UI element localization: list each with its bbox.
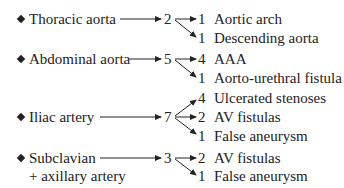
group-label-subclavian: Subclavian — [29, 150, 96, 166]
group-label-subclavian-line2: + axillary artery — [29, 168, 126, 184]
outcome-label: AV fistulas — [214, 109, 281, 125]
outcome-n: 1 — [198, 30, 206, 46]
outcome-label: False aneurysm — [214, 128, 308, 144]
group-label-thoracic: Thoracic aorta — [29, 11, 116, 27]
outcome-n: 2 — [198, 109, 206, 125]
group-count-abdominal: 5 — [164, 51, 172, 67]
outcome-label: AV fistulas — [214, 150, 281, 166]
outcome-n: 4 — [198, 51, 206, 67]
outcome-n: 1 — [198, 168, 206, 184]
outcome-label: Descending aorta — [214, 30, 319, 46]
group-label-abdominal: Abdominal aorta — [29, 51, 130, 67]
outcome-label: AAA — [214, 51, 247, 67]
group-count-thoracic: 2 — [164, 11, 172, 27]
outcome-label: Aortic arch — [214, 11, 282, 27]
outcome-n: 4 — [198, 90, 206, 106]
outcome-n: 2 — [198, 150, 206, 166]
outcome-label: Ulcerated stenoses — [214, 90, 326, 106]
outcome-n: 1 — [198, 128, 206, 144]
group-count-iliac: 7 — [164, 109, 172, 125]
outcome-label: False aneurysm — [214, 168, 308, 184]
outcome-n: 1 — [198, 11, 206, 27]
outcome-label: Aorto-urethral fistula — [214, 70, 342, 86]
group-count-subclavian: 3 — [164, 150, 172, 166]
outcome-n: 1 — [198, 70, 206, 86]
group-label-iliac: Iliac artery — [29, 109, 94, 125]
